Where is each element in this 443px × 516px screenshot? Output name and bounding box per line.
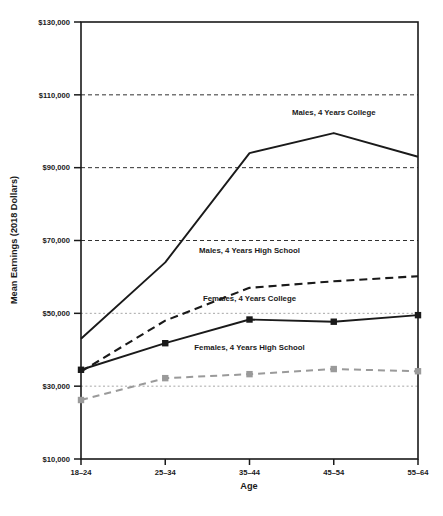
y-axis-tick-label: $110,000 [39, 91, 70, 100]
data-point-marker [246, 316, 252, 322]
data-point-marker [331, 319, 337, 325]
y-axis-tick-label: $50,000 [43, 309, 70, 318]
x-axis-tick-label: 35–44 [239, 468, 261, 477]
y-tickmarks-group [74, 22, 81, 459]
series-label-3: Females, 4 Years High School [194, 343, 304, 352]
series-line-2 [81, 315, 418, 370]
y-axis-tick-label: $70,000 [43, 236, 70, 245]
x-axis-tick-label: 55–64 [407, 468, 429, 477]
y-axis-tick-label: $130,000 [38, 18, 70, 27]
chart-canvas: $10,000$30,000$50,000$70,000$90,000$110,… [0, 0, 443, 516]
earnings-by-age-chart: $10,000$30,000$50,000$70,000$90,000$110,… [0, 0, 443, 516]
gridlines-group [81, 95, 418, 386]
series-label-2: Females, 4 Years College [203, 294, 297, 303]
data-point-marker [415, 368, 421, 374]
series-line-1 [81, 276, 418, 371]
y-axis-title: Mean Earnings (2018 Dollars) [9, 176, 19, 304]
data-point-marker [78, 397, 84, 403]
data-point-marker [78, 367, 84, 373]
series-label-1: Males, 4 Years High School [199, 246, 300, 255]
x-axis-tick-label: 25–34 [155, 468, 177, 477]
data-point-marker [415, 312, 421, 318]
y-axis-tick-label: $10,000 [43, 455, 70, 464]
y-axis-tick-label: $90,000 [43, 163, 70, 172]
data-point-marker [162, 340, 168, 346]
data-point-marker [246, 371, 252, 377]
data-point-marker [162, 375, 168, 381]
series-line-0 [81, 133, 418, 339]
x-axis-tick-label: 45–54 [323, 468, 345, 477]
series-markers-group [78, 312, 421, 403]
series-lines-group [81, 133, 418, 400]
x-tickmarks-group [81, 459, 418, 465]
y-axis-tick-labels: $10,000$30,000$50,000$70,000$90,000$110,… [38, 18, 70, 464]
data-point-marker [331, 366, 337, 372]
x-axis-tick-label: 18–24 [70, 468, 92, 477]
x-axis-title: Age [240, 481, 257, 491]
y-axis-tick-label: $30,000 [43, 382, 70, 391]
x-axis-tick-labels: 18–2425–3435–4445–5455–64 [70, 468, 429, 477]
series-label-0: Males, 4 Years College [292, 108, 376, 117]
